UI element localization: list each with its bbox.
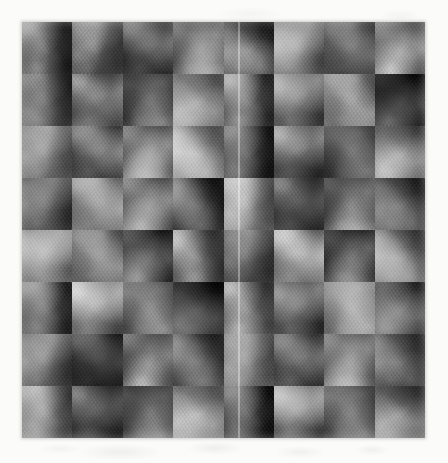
texture-tile-blobs (375, 178, 425, 230)
texture-tile (224, 22, 274, 74)
texture-tile-blobs (22, 334, 72, 386)
texture-tile-blobs (224, 334, 274, 386)
texture-tile (324, 334, 374, 386)
texture-tile (375, 74, 425, 126)
texture-tile-blobs (123, 386, 173, 438)
texture-tile (173, 386, 223, 438)
texture-tile-blobs (173, 74, 223, 126)
texture-tile-blobs (123, 230, 173, 282)
texture-tile (22, 334, 72, 386)
texture-tile-blobs (173, 386, 223, 438)
texture-tile (22, 178, 72, 230)
texture-tile (224, 178, 274, 230)
texture-tile (173, 282, 223, 334)
texture-tile-blobs (173, 282, 223, 334)
texture-mosaic-figure (22, 22, 425, 438)
texture-tile-blobs (123, 22, 173, 74)
texture-tile (123, 282, 173, 334)
scanned-page (0, 0, 448, 463)
texture-tile (173, 334, 223, 386)
texture-tile (72, 386, 122, 438)
texture-tile-blobs (72, 230, 122, 282)
texture-tile-blobs (224, 178, 274, 230)
texture-tile-blobs (375, 74, 425, 126)
texture-tile-blobs (324, 282, 374, 334)
texture-tile-blobs (72, 386, 122, 438)
texture-tile (224, 334, 274, 386)
texture-tile-blobs (224, 22, 274, 74)
texture-tile-blobs (123, 126, 173, 178)
texture-tile (324, 126, 374, 178)
texture-tile (123, 22, 173, 74)
texture-tile-blobs (324, 334, 374, 386)
texture-tile (123, 126, 173, 178)
texture-tile-blobs (224, 386, 274, 438)
texture-tile-blobs (22, 386, 72, 438)
texture-tile-blobs (72, 22, 122, 74)
texture-tile (173, 74, 223, 126)
texture-tile (173, 178, 223, 230)
texture-tile-blobs (22, 230, 72, 282)
texture-tile-blobs (123, 74, 173, 126)
texture-tile (123, 386, 173, 438)
texture-tile (375, 282, 425, 334)
texture-tile-blobs (72, 282, 122, 334)
texture-tile (274, 282, 324, 334)
texture-tile-blobs (224, 126, 274, 178)
texture-tile-blobs (324, 230, 374, 282)
texture-tile-blobs (324, 22, 374, 74)
texture-tile (274, 22, 324, 74)
texture-tile (375, 178, 425, 230)
texture-tile-blobs (173, 126, 223, 178)
texture-tile-blobs (22, 178, 72, 230)
texture-tile-blobs (173, 334, 223, 386)
texture-tile (22, 386, 72, 438)
texture-tile (72, 230, 122, 282)
texture-tile (274, 178, 324, 230)
texture-tile (274, 230, 324, 282)
texture-tile (375, 334, 425, 386)
texture-tile-blobs (224, 230, 274, 282)
texture-tile-blobs (274, 386, 324, 438)
texture-tile (173, 230, 223, 282)
texture-tile-blobs (22, 282, 72, 334)
texture-tile (324, 230, 374, 282)
texture-tile-blobs (173, 22, 223, 74)
texture-tile-blobs (375, 126, 425, 178)
texture-tile-blobs (22, 22, 72, 74)
texture-tile (224, 126, 274, 178)
texture-tile-blobs (22, 126, 72, 178)
texture-tile (22, 126, 72, 178)
texture-tile (22, 22, 72, 74)
texture-tile-blobs (375, 334, 425, 386)
texture-tile (224, 282, 274, 334)
texture-tile (22, 282, 72, 334)
texture-tile-blobs (274, 230, 324, 282)
texture-tile-blobs (274, 126, 324, 178)
texture-tile (274, 126, 324, 178)
texture-tile (173, 126, 223, 178)
texture-tile-blobs (375, 386, 425, 438)
texture-tile (274, 334, 324, 386)
texture-tile-blobs (375, 22, 425, 74)
texture-tile-blobs (274, 22, 324, 74)
texture-tile (123, 334, 173, 386)
texture-tile-blobs (224, 282, 274, 334)
texture-tile-blobs (123, 178, 173, 230)
texture-tile (22, 230, 72, 282)
texture-tile-blobs (324, 178, 374, 230)
texture-tile-blobs (123, 282, 173, 334)
texture-tile-blobs (274, 334, 324, 386)
texture-tile (324, 178, 374, 230)
texture-tile (72, 178, 122, 230)
texture-tile-blobs (72, 126, 122, 178)
texture-tile (274, 386, 324, 438)
texture-tile-blobs (274, 178, 324, 230)
texture-tile-blobs (274, 282, 324, 334)
texture-tile (72, 74, 122, 126)
texture-tile (375, 386, 425, 438)
texture-tile (375, 22, 425, 74)
texture-tile-blobs (173, 178, 223, 230)
texture-tile-blobs (123, 334, 173, 386)
texture-tile (123, 74, 173, 126)
